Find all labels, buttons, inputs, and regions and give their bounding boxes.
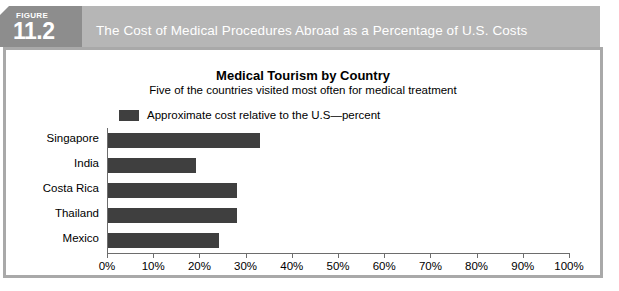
- bar: [108, 233, 219, 248]
- figure-number: 11.2: [13, 18, 55, 44]
- figure-number-badge: FIGURE 11.2: [0, 6, 82, 47]
- category-label: Singapore: [47, 132, 99, 144]
- chart-subtitle: Five of the countries visited most often…: [6, 84, 600, 96]
- x-axis-tick: [199, 254, 200, 258]
- x-axis-tick: [246, 254, 247, 258]
- category-label: Thailand: [55, 207, 99, 219]
- x-axis-tick-label: 90%: [511, 260, 534, 272]
- plot-area: SingaporeIndiaCosta RicaThailandMexico 0…: [107, 128, 569, 253]
- bar: [108, 158, 196, 173]
- x-axis-tick: [523, 254, 524, 258]
- category-label: Costa Rica: [43, 182, 99, 194]
- x-axis-tick-label: 40%: [280, 260, 303, 272]
- x-axis-tick-label: 70%: [419, 260, 442, 272]
- category-label: Mexico: [63, 232, 99, 244]
- x-axis-tick: [292, 254, 293, 258]
- x-axis-tick-label: 0%: [99, 260, 116, 272]
- bar: [108, 183, 237, 198]
- bar-row: India: [108, 153, 570, 178]
- bar-row: Costa Rica: [108, 178, 570, 203]
- legend-entry-label: Approximate cost relative to the U.S—per…: [147, 109, 380, 121]
- figure-banner-title: The Cost of Medical Procedures Abroad as…: [96, 23, 527, 38]
- x-axis-tick: [477, 254, 478, 258]
- x-axis-tick-label: 20%: [188, 260, 211, 272]
- x-axis-tick: [384, 254, 385, 258]
- bar-row: Thailand: [108, 203, 570, 228]
- x-axis-tick: [430, 254, 431, 258]
- legend-swatch-icon: [119, 110, 139, 121]
- chart-title: Medical Tourism by Country: [6, 68, 600, 83]
- x-axis-tick-label: 100%: [554, 260, 583, 272]
- bar-row: Mexico: [108, 228, 570, 253]
- chart-legend: Approximate cost relative to the U.S—per…: [119, 109, 380, 121]
- x-axis-tick-label: 60%: [373, 260, 396, 272]
- source-caption: [6, 284, 606, 291]
- x-axis-tick-label: 30%: [234, 260, 257, 272]
- x-axis-tick-label: 80%: [465, 260, 488, 272]
- x-axis-tick: [107, 254, 108, 258]
- x-axis-tick: [338, 254, 339, 258]
- x-axis-tick-label: 10%: [142, 260, 165, 272]
- bar: [108, 208, 237, 223]
- x-axis-tick: [153, 254, 154, 258]
- bar: [108, 133, 260, 148]
- category-label: India: [74, 157, 99, 169]
- bar-row: Singapore: [108, 128, 570, 153]
- figure-header-banner: The Cost of Medical Procedures Abroad as…: [0, 6, 600, 47]
- chart-container: Medical Tourism by Country Five of the c…: [3, 47, 603, 278]
- x-axis-tick-label: 50%: [326, 260, 349, 272]
- x-axis-tick: [569, 254, 570, 258]
